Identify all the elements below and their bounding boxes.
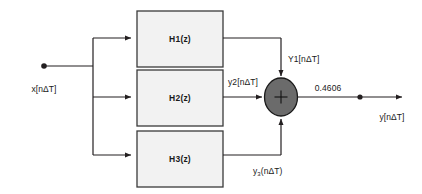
- output-signal-label: y[nΔT]: [379, 112, 404, 122]
- input-signal-label: x[nΔT]: [31, 84, 56, 94]
- block-diagram-canvas: H1(z) H2(z) H3(z) x[nΔT] Y1[nΔT] y2[nΔT]…: [0, 0, 422, 194]
- gain-value-label: 0.4606: [315, 83, 342, 93]
- block-h2-label: H2(z): [169, 93, 191, 103]
- branch-label-y1: Y1[nΔT]: [288, 54, 319, 64]
- block-h3-label: H3(z): [169, 154, 191, 164]
- branch-label-y3: y3(nΔT): [253, 166, 283, 177]
- branch-label-y3-tail: (nΔT): [261, 166, 283, 176]
- branch-label-y2: y2[nΔT]: [228, 77, 258, 87]
- output-node-dot: [357, 94, 362, 99]
- block-h1-label: H1(z): [169, 34, 191, 44]
- block-diagram-svg: H1(z) H2(z) H3(z) x[nΔT] Y1[nΔT] y2[nΔT]…: [0, 0, 422, 194]
